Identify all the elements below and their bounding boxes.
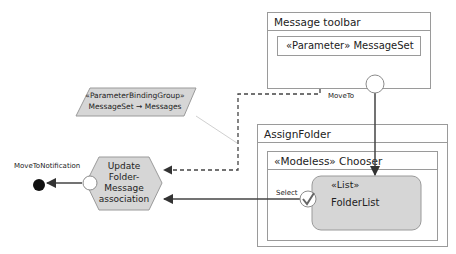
binding-connector: [196, 116, 237, 143]
move-to-notification-label: MoveToNotification: [14, 162, 80, 170]
binding-mapping: MessageSet → Messages: [80, 101, 190, 112]
action-line: Folder-: [94, 172, 154, 183]
action-text: Update Folder- Message association: [94, 161, 154, 205]
action-line: Message: [94, 183, 154, 194]
final-node[interactable]: [33, 179, 45, 191]
binding-group-text: «ParameterBindingGroup» MessageSet → Mes…: [80, 90, 190, 112]
binding-stereotype: «ParameterBindingGroup»: [80, 90, 190, 101]
select-label: Select: [276, 189, 298, 197]
folder-list-name: FolderList: [331, 197, 379, 208]
action-line: association: [94, 194, 154, 205]
toolbar-port[interactable]: [366, 75, 384, 93]
action-line: Update: [94, 161, 154, 172]
diagram-canvas: [0, 0, 456, 254]
move-to-label: MoveTo: [328, 92, 354, 100]
list-stereotype: «List»: [331, 179, 359, 190]
